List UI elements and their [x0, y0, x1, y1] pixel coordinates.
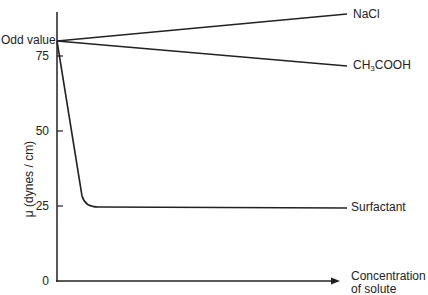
y-tick-label-0: 0	[19, 275, 49, 288]
legend-nacl: NaCl	[353, 8, 380, 21]
odd-value-label: Odd value	[1, 34, 56, 47]
legend-surfactant: Surfactant	[351, 201, 406, 214]
legend-ch3cooh: CH3COOH	[353, 59, 411, 75]
ch3cooh-part: CH	[353, 58, 370, 72]
y-tick-label-75: 75	[19, 50, 49, 63]
series-nacl	[57, 14, 347, 41]
x-axis-label-line2: of solute	[351, 283, 396, 295]
chart-plot	[0, 0, 428, 295]
ch3cooh-part: COOH	[375, 58, 411, 72]
y-axis-label: μ (dynes / cm)	[22, 131, 36, 227]
series-surfactant	[57, 41, 347, 208]
x-axis-arrow-icon	[331, 278, 340, 285]
series-ch3cooh	[57, 41, 347, 66]
